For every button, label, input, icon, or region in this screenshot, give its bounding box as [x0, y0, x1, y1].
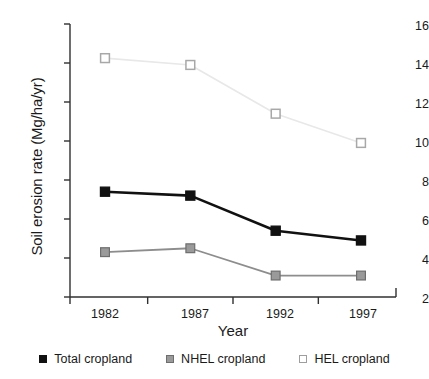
- legend-swatch-icon: [166, 355, 174, 363]
- axis-spines: [70, 24, 396, 297]
- legend-item-hel-cropland: HEL cropland: [299, 352, 389, 366]
- legend-swatch-icon: [39, 355, 47, 363]
- legend-label: Total cropland: [54, 352, 132, 366]
- legend-label: HEL cropland: [314, 352, 389, 366]
- series-lines: [105, 58, 361, 275]
- chart-legend: Total cropland NHEL cropland HEL croplan…: [0, 352, 429, 366]
- x-axis-ticks: [70, 297, 318, 304]
- legend-item-nhel-cropland: NHEL cropland: [166, 352, 265, 366]
- legend-swatch-icon: [299, 355, 307, 363]
- legend-item-total-cropland: Total cropland: [39, 352, 132, 366]
- chart-figure: Soil erosion rate (Mg/ha/yr) 16 14 12 10…: [0, 0, 429, 379]
- legend-label: NHEL cropland: [181, 352, 265, 366]
- y-axis-ticks: [64, 24, 70, 297]
- plot-area: [0, 0, 429, 379]
- series-markers: [100, 54, 365, 280]
